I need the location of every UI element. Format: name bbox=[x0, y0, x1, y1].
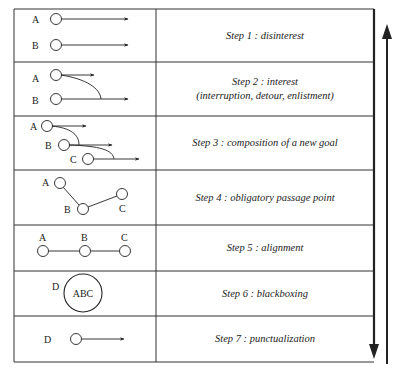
step-4-text: Step 4 : obligatory passage point bbox=[157, 170, 373, 225]
blackbox-label: ABC bbox=[73, 288, 94, 299]
step-label: Step 2 : interest bbox=[232, 75, 298, 89]
node-label-a: A bbox=[32, 73, 40, 84]
up-arrow-icon bbox=[382, 24, 392, 364]
step-7-text: Step 7 : punctualization bbox=[157, 316, 373, 362]
step-7-diagram bbox=[71, 334, 125, 345]
node-label-b: B bbox=[64, 204, 71, 215]
step-2-text: Step 2 : interest (interruption, detour,… bbox=[157, 62, 373, 116]
step-3-text: Step 3 : composition of a new goal bbox=[157, 116, 373, 170]
step-label: Step 3 : composition of a new goal bbox=[192, 136, 338, 150]
node-label-d: D bbox=[44, 334, 51, 345]
node-label-b: B bbox=[32, 40, 39, 51]
node-label-a: A bbox=[30, 121, 38, 132]
step-label: Step 6 : blackboxing bbox=[222, 287, 308, 301]
step-label: Step 1 : disinterest bbox=[226, 29, 304, 43]
step-2-diagram bbox=[51, 70, 129, 105]
node-label-d: D bbox=[52, 281, 59, 292]
node-label-c: C bbox=[121, 232, 128, 243]
step-label: Step 7 : punctualization bbox=[215, 332, 315, 346]
node-label-a: A bbox=[32, 14, 40, 25]
node-label-b: B bbox=[81, 232, 88, 243]
node-label-b: B bbox=[32, 95, 39, 106]
step-6-text: Step 6 : blackboxing bbox=[157, 271, 373, 316]
step-label: Step 5 : alignment bbox=[227, 241, 304, 255]
step-sublabel: (interruption, detour, enlistment) bbox=[196, 89, 334, 103]
node-label-a: A bbox=[42, 177, 50, 188]
step-5-diagram bbox=[38, 246, 131, 257]
node-label-a: A bbox=[39, 232, 47, 243]
translation-steps-diagram: A B A B A B C A B C A B bbox=[0, 0, 397, 372]
node-label-c: C bbox=[119, 203, 126, 214]
step-label: Step 4 : obligatory passage point bbox=[195, 191, 334, 205]
node-label-b: B bbox=[45, 140, 52, 151]
node-label-c: C bbox=[70, 154, 77, 165]
step-1-diagram bbox=[51, 14, 129, 51]
step-3-diagram bbox=[42, 121, 140, 165]
step-1-text: Step 1 : disinterest bbox=[157, 9, 373, 62]
step-5-text: Step 5 : alignment bbox=[157, 225, 373, 271]
